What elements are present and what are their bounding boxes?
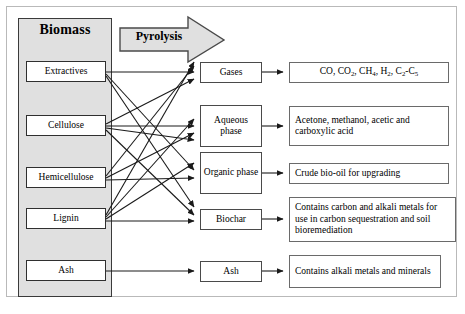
edge-hemicellulose-gases bbox=[106, 66, 194, 176]
connector-arrows bbox=[0, 0, 465, 314]
edge-hemicellulose-organic bbox=[106, 178, 194, 180]
pyrolysis-diagram: Biomass Pyrolysis bbox=[0, 0, 465, 314]
edge-extractives-biochar bbox=[106, 76, 194, 207]
